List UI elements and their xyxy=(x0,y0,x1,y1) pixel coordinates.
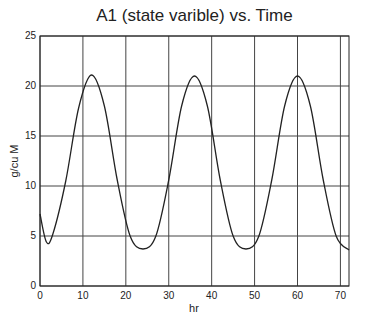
x-tick-label: 30 xyxy=(163,290,175,301)
y-tick-label: 5 xyxy=(30,230,36,241)
y-tick-label: 15 xyxy=(25,130,37,141)
chart-plot: 0102030405060700510152025 hr g/cu M xyxy=(0,0,365,326)
x-tick-label: 10 xyxy=(77,290,89,301)
x-tick-label: 70 xyxy=(335,290,347,301)
x-tick-label: 40 xyxy=(206,290,218,301)
grid-lines xyxy=(40,36,349,286)
y-tick-label: 25 xyxy=(25,30,37,41)
x-axis-label: hr xyxy=(189,302,199,314)
y-tick-label: 0 xyxy=(30,280,36,291)
y-tick-label: 10 xyxy=(25,180,37,191)
x-tick-label: 0 xyxy=(37,290,43,301)
x-tick-label: 60 xyxy=(292,290,304,301)
y-axis-label: g/cu M xyxy=(8,144,20,177)
x-tick-label: 50 xyxy=(249,290,261,301)
y-tick-label: 20 xyxy=(25,80,37,91)
tick-labels: 0102030405060700510152025 xyxy=(25,30,347,301)
plot-frame xyxy=(40,36,349,286)
a1-series-line xyxy=(40,75,349,250)
x-tick-label: 20 xyxy=(120,290,132,301)
